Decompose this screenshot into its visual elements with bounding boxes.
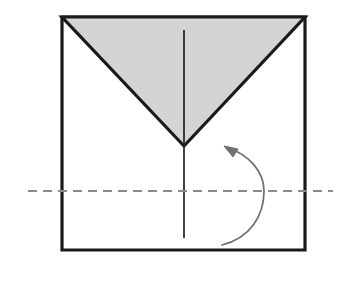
origami-figure-svg [0, 0, 348, 286]
origami-diagram [0, 0, 348, 286]
